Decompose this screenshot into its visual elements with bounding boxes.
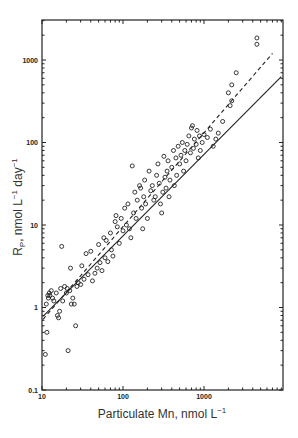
data-point bbox=[147, 169, 151, 173]
data-point bbox=[153, 195, 157, 199]
data-point bbox=[162, 154, 166, 158]
dashed-regression-line bbox=[43, 53, 272, 319]
data-point bbox=[164, 186, 168, 190]
data-point bbox=[113, 220, 117, 224]
data-point bbox=[205, 135, 209, 139]
data-point bbox=[135, 198, 139, 202]
data-point bbox=[82, 277, 86, 281]
data-point bbox=[168, 178, 172, 182]
data-point bbox=[109, 248, 113, 252]
data-point bbox=[59, 286, 63, 290]
data-point bbox=[192, 137, 196, 141]
x-axis-label: Particulate Mn, nmol L−1 bbox=[98, 406, 227, 421]
data-point bbox=[194, 142, 198, 146]
data-point bbox=[155, 173, 159, 177]
data-point bbox=[178, 162, 182, 166]
data-point bbox=[255, 42, 259, 46]
data-point bbox=[166, 159, 170, 163]
data-point bbox=[161, 190, 165, 194]
data-point bbox=[119, 216, 123, 220]
data-point bbox=[89, 249, 93, 253]
data-point bbox=[216, 131, 220, 135]
data-point bbox=[84, 252, 88, 256]
data-point bbox=[60, 244, 64, 248]
x-tick-label: 10 bbox=[38, 393, 46, 400]
y-axis-label: RP, nmol L−1 day−1 bbox=[10, 158, 27, 256]
data-point bbox=[124, 223, 128, 227]
data-point bbox=[195, 128, 199, 132]
data-point bbox=[182, 169, 186, 173]
data-point bbox=[185, 142, 189, 146]
scatter-chart: 1010010000.11101001000 Particulate Mn, n… bbox=[0, 0, 298, 438]
data-point bbox=[179, 153, 183, 157]
data-point bbox=[191, 146, 195, 150]
data-point bbox=[129, 236, 133, 240]
data-point bbox=[138, 184, 142, 188]
data-point bbox=[214, 137, 218, 141]
data-point bbox=[145, 216, 149, 220]
data-point bbox=[180, 141, 184, 145]
data-point bbox=[71, 296, 75, 300]
data-point bbox=[142, 195, 146, 199]
x-tick-label: 1000 bbox=[196, 393, 212, 400]
data-point bbox=[72, 302, 76, 306]
data-point bbox=[103, 256, 107, 260]
data-point bbox=[126, 202, 130, 206]
y-tick-label: 100 bbox=[26, 139, 38, 146]
data-point bbox=[176, 144, 180, 148]
data-point bbox=[228, 104, 232, 108]
data-point bbox=[108, 231, 112, 235]
data-point bbox=[121, 229, 125, 233]
data-point bbox=[123, 206, 127, 210]
data-point bbox=[187, 134, 191, 138]
data-point bbox=[198, 148, 202, 152]
data-point bbox=[134, 216, 138, 220]
data-point bbox=[141, 227, 145, 231]
data-point bbox=[95, 266, 99, 270]
data-point bbox=[97, 243, 101, 247]
data-point bbox=[90, 279, 94, 283]
data-point bbox=[54, 291, 58, 295]
data-point bbox=[171, 148, 175, 152]
data-point bbox=[139, 186, 143, 190]
data-point bbox=[106, 260, 110, 264]
data-point bbox=[230, 83, 234, 87]
data-point bbox=[117, 241, 121, 245]
data-point bbox=[104, 238, 108, 242]
data-point bbox=[183, 148, 187, 152]
data-point bbox=[61, 299, 65, 303]
data-point bbox=[93, 271, 97, 275]
data-point bbox=[80, 264, 84, 268]
data-point bbox=[163, 175, 167, 179]
data-point bbox=[165, 169, 169, 173]
y-tick-label: 1 bbox=[34, 304, 38, 311]
data-point bbox=[43, 352, 47, 356]
data-point bbox=[144, 202, 148, 206]
data-point bbox=[234, 71, 238, 75]
data-point bbox=[167, 195, 171, 199]
data-point bbox=[100, 269, 104, 273]
data-point bbox=[69, 266, 73, 270]
data-point bbox=[208, 127, 212, 131]
y-tick-label: 1000 bbox=[22, 57, 38, 64]
data-point bbox=[150, 184, 154, 188]
data-point bbox=[184, 159, 188, 163]
data-point bbox=[130, 164, 134, 168]
tick-labels: 1010010000.11101001000 bbox=[22, 57, 211, 401]
data-point bbox=[160, 211, 164, 215]
data-point bbox=[114, 214, 118, 218]
data-point bbox=[158, 202, 162, 206]
data-point bbox=[44, 302, 48, 306]
data-point bbox=[66, 349, 70, 353]
regression-lines bbox=[43, 53, 281, 319]
data-point bbox=[98, 261, 102, 265]
y-tick-label: 10 bbox=[30, 222, 38, 229]
data-points bbox=[43, 36, 259, 356]
data-point bbox=[115, 225, 119, 229]
data-point bbox=[58, 309, 62, 313]
x-tick-label: 100 bbox=[117, 393, 129, 400]
data-point bbox=[188, 151, 192, 155]
y-tick-label: 0.1 bbox=[28, 387, 38, 394]
data-point bbox=[174, 156, 178, 160]
data-point bbox=[140, 206, 144, 210]
